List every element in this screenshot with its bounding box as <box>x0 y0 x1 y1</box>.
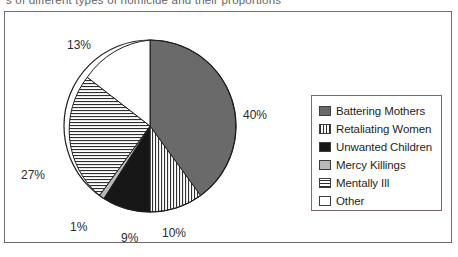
pie-svg <box>62 38 238 214</box>
legend-item-retaliating-women: Retaliating Women <box>319 120 436 137</box>
legend-label-unwanted-children: Unwanted Children <box>336 141 432 153</box>
legend-label-battering-mothers: Battering Mothers <box>336 105 425 117</box>
legend-swatch-mentally-ill <box>319 178 331 188</box>
legend-swatch-unwanted-children <box>319 142 331 152</box>
pie-label-mentally-ill: 27% <box>21 168 45 182</box>
pie-chart <box>62 38 238 214</box>
chart-legend: Battering Mothers Retaliating Women Unwa… <box>311 95 442 211</box>
legend-item-other: Other <box>319 192 436 209</box>
pie-label-battering-mothers: 40% <box>243 108 267 122</box>
pie-label-other: 13% <box>67 38 91 52</box>
legend-item-mercy-killings: Mercy Killings <box>319 156 436 173</box>
legend-swatch-battering-mothers <box>319 106 331 116</box>
legend-label-mercy-killings: Mercy Killings <box>336 159 406 171</box>
figure-frame: 13% 40% 10% 9% 1% 27% Battering Mothers … <box>4 11 452 243</box>
pie-label-unwanted-children: 9% <box>121 231 138 245</box>
legend-label-retaliating-women: Retaliating Women <box>336 123 431 135</box>
legend-label-mentally-ill: Mentally Ill <box>336 177 389 189</box>
pie-label-retaliating-women: 10% <box>162 226 186 240</box>
caption-text-fragment: s of different types of homicide and the… <box>6 0 436 6</box>
legend-swatch-mercy-killings <box>319 160 331 170</box>
legend-swatch-other <box>319 196 331 206</box>
legend-label-other: Other <box>336 195 364 207</box>
legend-swatch-retaliating-women <box>319 124 331 134</box>
legend-item-battering-mothers: Battering Mothers <box>319 102 436 119</box>
pie-label-mercy-killings: 1% <box>70 220 87 234</box>
legend-item-mentally-ill: Mentally Ill <box>319 174 436 191</box>
legend-item-unwanted-children: Unwanted Children <box>319 138 436 155</box>
